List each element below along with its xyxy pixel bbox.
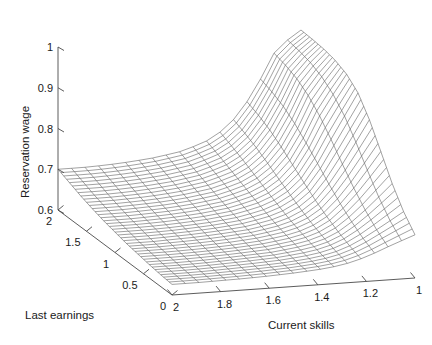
x-axis-tick-label: 1 xyxy=(416,285,422,296)
y-axis-title: Last earnings xyxy=(25,310,94,322)
y-axis-tick-label: 0 xyxy=(160,301,166,312)
x-axis-tick-label: 2 xyxy=(173,302,179,313)
x-axis-tick-label: 1.2 xyxy=(363,288,378,299)
x-axis-title: Current skills xyxy=(268,320,334,332)
y-axis-tick-label: 1.5 xyxy=(65,237,80,248)
axis-lines xyxy=(58,47,415,295)
y-axis-tick-label: 0.5 xyxy=(122,279,137,290)
z-axis-tick-label: 0.9 xyxy=(38,82,53,93)
surface-mesh xyxy=(58,30,415,284)
x-axis-tick-label: 1.8 xyxy=(217,298,232,309)
y-axis-tick-label: 2 xyxy=(46,216,52,227)
surface-plot-figure: 1 0.9 0.8 0.7 0.6 2 1.5 1 0.5 0 2 1.8 1.… xyxy=(0,0,432,345)
z-axis-tick-label: 0.8 xyxy=(38,123,53,134)
z-axis-tick-label: 1 xyxy=(47,42,53,53)
z-axis-tick-label: 0.7 xyxy=(38,164,53,175)
x-axis-tick-label: 1.4 xyxy=(314,291,329,302)
x-axis-tick-label: 1.6 xyxy=(266,295,281,306)
y-axis-tick-label: 1 xyxy=(103,258,109,269)
z-axis-title: Reservation wage xyxy=(20,106,32,198)
axis-tick-marks xyxy=(58,47,415,295)
